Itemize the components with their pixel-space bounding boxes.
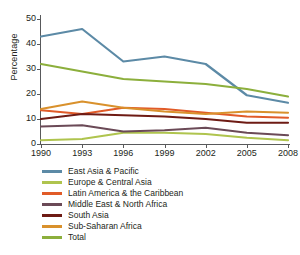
legend-item[interactable]: Latin America & the Caribbean [42,188,292,199]
series-line [41,29,288,103]
legend-item-label: East Asia & Pacific [68,166,139,177]
legend-item[interactable]: Total [42,232,292,243]
legend-swatch [42,214,62,217]
legend-item-label: South Asia [68,210,109,221]
legend-item-label: Middle East & North Africa [68,199,167,210]
legend-swatch [42,225,62,228]
legend-swatch [42,170,62,173]
y-axis-tick-mark [37,69,40,70]
legend-item-label: Latin America & the Caribbean [68,188,183,199]
y-axis-tick-mark [37,144,40,145]
legend-item-label: Sub-Saharan Africa [68,221,142,232]
y-axis-tick-mark [37,94,40,95]
legend-item[interactable]: East Asia & Pacific [42,166,292,177]
series-lines [0,0,300,160]
plot-area: Percentage 01020304050 19901993199619992… [0,0,300,160]
legend-swatch [42,203,62,206]
legend-item-label: Total [68,232,86,243]
series-line [41,102,288,115]
y-axis-tick-mark [37,119,40,120]
x-axis-tick-label: 2002 [189,149,223,158]
series-line [41,64,288,97]
legend-swatch [42,192,62,195]
legend-swatch [42,236,62,239]
legend-item-label: Europe & Central Asia [68,177,152,188]
legend: East Asia & PacificEurope & Central Asia… [42,166,292,243]
x-axis-tick-label: 1993 [65,149,99,158]
legend-item[interactable]: Middle East & North Africa [42,199,292,210]
y-axis-tick-mark [37,19,40,20]
series-line [41,114,288,123]
line-chart: Percentage 01020304050 19901993199619992… [0,0,300,255]
x-axis-tick-label: 2008 [271,149,300,158]
legend-swatch [42,181,62,184]
y-axis-tick-mark [37,44,40,45]
x-axis-tick-label: 1999 [148,149,182,158]
legend-item[interactable]: Europe & Central Asia [42,177,292,188]
x-axis-tick-label: 1996 [106,149,140,158]
x-axis-tick-label: 1990 [24,149,58,158]
legend-item[interactable]: South Asia [42,210,292,221]
x-axis-tick-label: 2005 [230,149,264,158]
legend-item[interactable]: Sub-Saharan Africa [42,221,292,232]
